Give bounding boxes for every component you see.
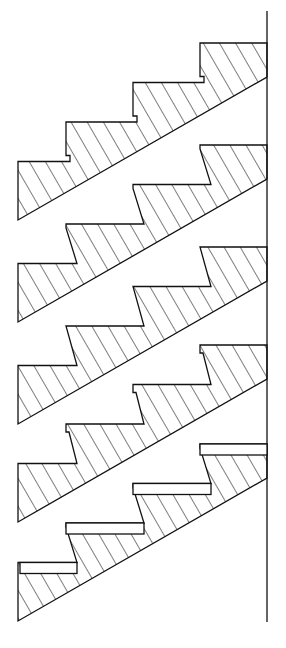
tread-plank — [66, 523, 144, 534]
tread-plank — [133, 484, 211, 495]
tread-plank — [20, 563, 77, 574]
tread-plank — [200, 444, 267, 455]
stair-lipped-nosing — [0, 335, 267, 532]
stair-section-diagram — [0, 0, 286, 648]
hatching — [0, 335, 267, 532]
